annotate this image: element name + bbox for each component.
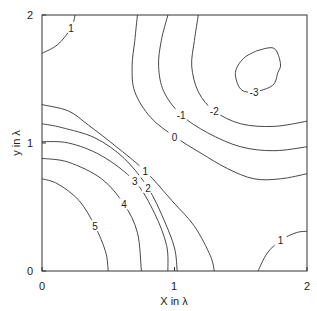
x-tick-2: 2 — [304, 280, 310, 292]
contour-label: 2 — [145, 183, 151, 194]
contour-label: -3 — [250, 87, 259, 98]
y-tick-0: 0 — [27, 265, 33, 277]
x-tick-1: 1 — [171, 280, 177, 292]
contour-label: 4 — [121, 199, 127, 210]
contour-line-level-neg3 — [235, 48, 280, 92]
contour-line-level-1 — [42, 15, 75, 53]
contour-label: 3 — [132, 176, 138, 187]
contour-plot: 54321110-1-2-3 0 1 2 0 1 2 X in λ y in λ — [0, 0, 317, 311]
contour-label: 1 — [278, 235, 284, 246]
contour-line-level-3 — [42, 142, 168, 271]
contour-line-level-neg1 — [159, 15, 307, 151]
x-axis-label: X in λ — [160, 295, 188, 307]
contour-label: -1 — [177, 110, 186, 121]
contour-line-level-2 — [42, 124, 177, 271]
contour-label: 5 — [92, 221, 98, 232]
contour-labels: 54321110-1-2-3 — [65, 22, 286, 246]
y-tick-1: 1 — [27, 137, 33, 149]
axis-ticks — [42, 15, 307, 271]
plot-frame — [42, 15, 307, 271]
y-axis-label: y in λ — [10, 130, 22, 156]
contour-lines — [42, 15, 307, 271]
contour-label: 1 — [68, 23, 74, 34]
y-tick-2: 2 — [27, 9, 33, 21]
contour-label: 1 — [143, 166, 149, 177]
contour-line-level-4 — [42, 158, 141, 271]
contour-label: 0 — [172, 132, 178, 143]
contour-line-level-0 — [132, 15, 307, 180]
contour-label: -2 — [210, 106, 219, 117]
x-tick-0: 0 — [39, 280, 45, 292]
